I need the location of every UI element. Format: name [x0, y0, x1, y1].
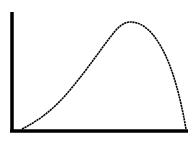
hump-curve: [22, 22, 186, 129]
curve-diagram: [0, 0, 196, 142]
